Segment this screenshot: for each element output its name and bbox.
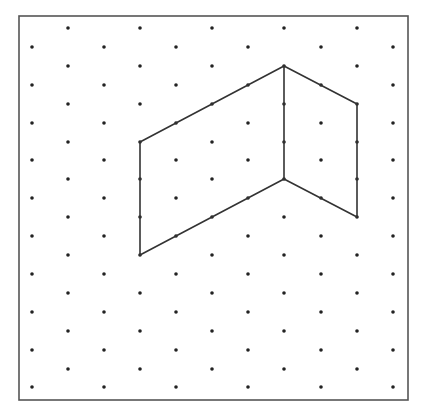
grid-dot — [319, 45, 323, 49]
grid-dot — [102, 158, 106, 162]
grid-dot — [355, 253, 359, 257]
grid-dot — [319, 272, 323, 276]
grid-dot — [66, 367, 70, 371]
grid-dot — [246, 348, 250, 352]
grid-dot — [210, 26, 214, 30]
grid-dot — [355, 367, 359, 371]
grid-dot — [246, 234, 250, 238]
grid-dot — [282, 367, 286, 371]
grid-dot — [319, 158, 323, 162]
grid-dot — [391, 196, 395, 200]
grid-dot — [282, 291, 286, 295]
grid-dot — [210, 367, 214, 371]
grid-dot — [30, 45, 34, 49]
grid-dot — [138, 291, 142, 295]
grid-dot — [210, 64, 214, 68]
grid-dot — [174, 45, 178, 49]
grid-dot — [174, 272, 178, 276]
grid-dot — [391, 121, 395, 125]
grid-dot — [30, 385, 34, 389]
grid-dot — [174, 158, 178, 162]
grid-dot — [391, 45, 395, 49]
grid-dot — [246, 272, 250, 276]
grid-dot — [138, 367, 142, 371]
grid-dot — [174, 385, 178, 389]
grid-dot — [319, 310, 323, 314]
grid-dot — [66, 26, 70, 30]
grid-dot — [319, 234, 323, 238]
grid-dot — [174, 196, 178, 200]
isometric-dot-grid-diagram — [0, 0, 424, 417]
grid-dot — [66, 215, 70, 219]
grid-dot — [30, 348, 34, 352]
grid-dot — [391, 83, 395, 87]
diagram-border — [19, 16, 408, 400]
grid-dot — [102, 234, 106, 238]
grid-dot — [66, 291, 70, 295]
grid-dot — [174, 310, 178, 314]
grid-dot — [246, 385, 250, 389]
grid-dot — [210, 177, 214, 181]
grid-dot — [102, 348, 106, 352]
grid-dot — [102, 385, 106, 389]
grid-dot — [102, 272, 106, 276]
grid-dot — [30, 196, 34, 200]
grid-dot — [102, 45, 106, 49]
grid-dot — [102, 83, 106, 87]
grid-dot — [30, 83, 34, 87]
grid-dot — [391, 272, 395, 276]
grid-dot — [102, 196, 106, 200]
grid-dot — [391, 348, 395, 352]
grid-dot — [391, 234, 395, 238]
grid-dot — [66, 177, 70, 181]
grid-dot — [30, 234, 34, 238]
grid-dot — [30, 121, 34, 125]
grid-dot — [210, 253, 214, 257]
grid-dot — [138, 102, 142, 106]
grid-dot — [319, 385, 323, 389]
grid-dot — [138, 26, 142, 30]
grid-dot — [30, 272, 34, 276]
grid-dot — [282, 26, 286, 30]
grid-dot — [391, 385, 395, 389]
grid-dot — [138, 64, 142, 68]
grid-dot — [102, 121, 106, 125]
grid-dot — [355, 26, 359, 30]
grid-dot — [66, 140, 70, 144]
grid-dot — [210, 140, 214, 144]
grid-dot — [210, 329, 214, 333]
grid-dot — [174, 83, 178, 87]
grid-dot — [66, 329, 70, 333]
grid-dot — [66, 253, 70, 257]
grid-dot — [246, 310, 250, 314]
grid-dot — [66, 64, 70, 68]
grid-dot — [138, 329, 142, 333]
grid-dot — [355, 329, 359, 333]
grid-dot — [355, 291, 359, 295]
grid-dot — [30, 310, 34, 314]
grid-dot — [174, 348, 178, 352]
grid-dot — [282, 329, 286, 333]
grid-dot — [391, 158, 395, 162]
grid-dot — [210, 291, 214, 295]
grid-dot — [282, 253, 286, 257]
grid-dot — [319, 121, 323, 125]
grid-dot — [391, 310, 395, 314]
grid-dot — [282, 215, 286, 219]
grid-dot — [246, 45, 250, 49]
grid-dot — [30, 158, 34, 162]
grid-dot — [102, 310, 106, 314]
grid-dot — [66, 102, 70, 106]
grid-dot — [319, 348, 323, 352]
grid-dot — [246, 158, 250, 162]
grid-dot — [246, 121, 250, 125]
grid-dot — [355, 64, 359, 68]
